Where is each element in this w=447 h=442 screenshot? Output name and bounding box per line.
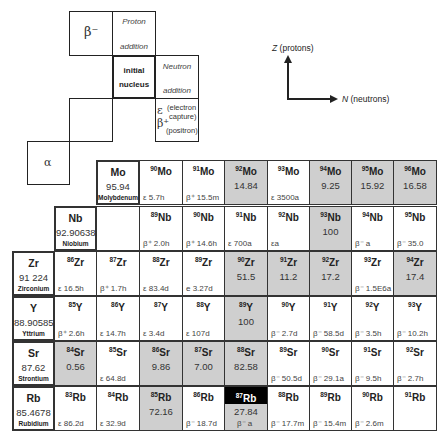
isotope-label: 94Mo: [310, 165, 351, 177]
mass-number: 84: [67, 346, 74, 353]
legend-box-electron-capture: ε (electron capture) β⁺ (positron): [155, 98, 199, 142]
isotope-cell-rb-86: 86Rbβ⁻ 18.7d: [182, 386, 225, 431]
decay-mode-halflife: β⁻ 2.7d: [271, 329, 308, 338]
neutron-label: Neutron: [156, 62, 198, 71]
isotope-cell-mo-94: 94Mo9.25: [309, 160, 352, 205]
mass-number: 90: [322, 346, 329, 353]
isotope-label: 91Nb: [225, 211, 267, 223]
decay-mode-halflife: β⁻ 50.5d: [271, 374, 308, 383]
element-symbol: Sr: [14, 347, 53, 359]
decay-mode-halflife: ε 16.5h: [58, 284, 95, 293]
isotope-cell-nb-90: 90Nbβ⁺ 14.6h: [182, 206, 225, 251]
atomic-weight: 87.62: [14, 362, 53, 373]
n-text: (neutrons): [351, 94, 390, 104]
isotope-label: 93Y: [394, 301, 436, 313]
isotope-label: 90Zr: [225, 256, 267, 268]
isotope-label: 90Mo: [140, 165, 182, 177]
mass-number: 85: [151, 391, 158, 398]
isotope-symbol: Nb: [369, 212, 382, 223]
element-cell-rb: Rb85.4678Rubidium: [12, 386, 55, 431]
isotope-label: 90Y: [268, 301, 309, 313]
isotope-cell-nb-91: 91Nbε 700a: [224, 206, 268, 251]
isotope-label: 90Nb: [183, 211, 224, 223]
mass-number: 91: [193, 165, 200, 172]
isotope-symbol: Mo: [285, 166, 299, 177]
isotope-symbol: Nb: [327, 212, 340, 223]
isotope-symbol: Sr: [329, 347, 340, 358]
isotope-symbol: Sr: [202, 347, 213, 358]
isotope-label: 92Sr: [394, 346, 436, 358]
decay-mode-halflife: β⁺ 14.6h: [186, 239, 223, 248]
isotope-cell-y-86: 86Yε 14.7h: [96, 296, 140, 341]
element-name: Strontium: [14, 375, 53, 382]
decay-mode-halflife: β⁻ 2.7h: [397, 374, 435, 383]
isotope-cell-nb-95: 95Nbβ⁻ 35.0: [393, 206, 437, 251]
mass-number: 92: [366, 301, 373, 308]
z-text: (protons): [280, 43, 314, 53]
isotope-label: 91Rb: [394, 391, 436, 403]
decay-mode-halflife: ε 700a: [228, 239, 266, 248]
decay-mode-halflife: e 3.27d: [186, 284, 223, 293]
isotope-symbol: Rb: [115, 392, 128, 403]
isotope-symbol: Nb: [158, 212, 171, 223]
isotope-cell-y-93: 93Yβ⁻ 10.2h: [393, 296, 437, 341]
isotope-label: 89Y: [225, 301, 267, 313]
isotope-cell-mo-91: 91Moβ⁺ 15.5m: [182, 160, 225, 205]
z-axis-arrow-icon: [284, 55, 292, 63]
decay-mode-halflife: β⁻ 18.7d: [186, 419, 223, 428]
natural-abundance: 17.4: [394, 271, 436, 282]
isotope-label: 88Sr: [225, 346, 267, 358]
decay-mode-halflife: β⁻ 2.6m: [355, 419, 392, 428]
proton-label: Proton: [113, 17, 155, 26]
isotope-label: 91Sr: [352, 346, 393, 358]
element-symbol: Zr: [14, 257, 53, 269]
natural-abundance: 0.56: [55, 361, 96, 372]
natural-abundance: 7.00: [183, 361, 224, 372]
atomic-weight: 91 224: [14, 272, 53, 283]
isotope-label: 92Zr: [310, 256, 351, 268]
isotope-label: 89Sr: [268, 346, 309, 358]
isotope-symbol: Y: [331, 302, 338, 313]
mass-number: 87: [109, 256, 116, 263]
isotope-label: 95Mo: [352, 165, 393, 177]
isotope-symbol: Rb: [200, 392, 213, 403]
mass-number: 90: [237, 256, 244, 263]
isotope-cell-zr-91: 91Zr11.2: [267, 251, 310, 296]
isotope-symbol: Y: [118, 302, 125, 313]
isotope-symbol: Y: [246, 302, 253, 313]
isotope-label: 94Nb: [352, 211, 393, 223]
decay-mode-halflife: ε 86.2d: [58, 419, 95, 428]
mass-number: 89: [280, 346, 287, 353]
isotope-cell-sr-88: 88Sr82.58: [224, 341, 268, 386]
isotope-cell-nb-93: 93Nb100: [309, 206, 352, 251]
positron-text: (positron): [166, 126, 198, 135]
isotope-symbol: Sr: [287, 347, 298, 358]
isotope-cell-zr-94: 94Zr17.4: [393, 251, 437, 296]
isotope-cell-mo-92: 92Mo14.84: [224, 160, 268, 205]
mass-number: 94: [406, 256, 413, 263]
decay-mode-halflife: β⁻ 15.4m: [313, 419, 350, 428]
isotope-cell-y-88: 88Yε 107d: [182, 296, 225, 341]
decay-mode-halflife: β⁺ 1.7h: [100, 284, 138, 293]
isotope-cell-sr-90: 90Srβ⁻ 29.1a: [309, 341, 352, 386]
isotope-symbol: Sr: [116, 347, 127, 358]
isotope-label: 96Mo: [394, 165, 436, 177]
initial-label: initial: [114, 66, 154, 75]
isotope-symbol: Rb: [327, 392, 340, 403]
mass-number: 85: [69, 301, 76, 308]
natural-abundance: 17.2: [310, 271, 351, 282]
isotope-cell-mo-96: 96Mo16.58: [393, 160, 437, 205]
alpha-symbol: α: [44, 156, 51, 169]
z-var: Z: [272, 43, 277, 53]
element-cell-mo: Mo95.94Molybdenum: [96, 160, 140, 205]
z-axis-label: Z (protons): [272, 43, 314, 53]
element-symbol: Rb: [14, 392, 53, 404]
isotope-cell-y-85: 85Yβ⁺ 2.6h: [54, 296, 97, 341]
element-symbol: Mo: [98, 166, 138, 178]
decay-mode-halflife: β⁺ 2.6h: [58, 329, 95, 338]
decay-mode-halflife: ε 5.7h: [143, 193, 181, 202]
isotope-label: 95Nb: [394, 211, 436, 223]
isotope-label: 91Y: [310, 301, 351, 313]
isotope-symbol: Nb: [200, 212, 213, 223]
decay-mode-halflife: ε 107d: [186, 329, 223, 338]
